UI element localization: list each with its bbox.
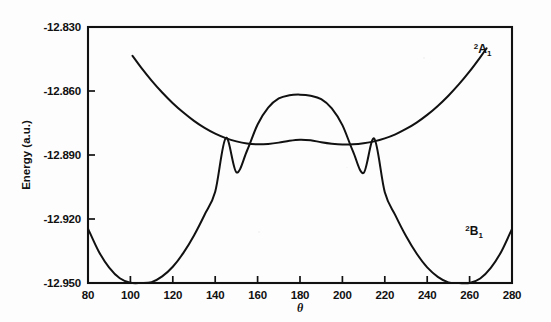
x-axis-title: θ — [297, 301, 304, 315]
y-axis-title: Energy (a.u.) — [20, 120, 32, 190]
x-tick-label: 100 — [121, 289, 140, 301]
series-label-2B1: 2B1 — [465, 224, 483, 240]
x-tick-label: 80 — [82, 289, 94, 301]
data-curves — [88, 48, 512, 283]
x-tick-label: 240 — [418, 289, 437, 301]
x-tick-label: 180 — [291, 289, 310, 301]
x-tick-label: 260 — [460, 289, 479, 301]
x-tick-label: 200 — [333, 289, 352, 301]
energy-vs-theta-chart: 80100120140160180200220240260280 -12.950… — [0, 0, 551, 322]
x-tick-label: 160 — [248, 289, 267, 301]
y-tick-label: -12.950 — [43, 277, 81, 289]
series-label-2A1: 2A1 — [474, 42, 492, 58]
x-tick-label: 120 — [164, 289, 183, 301]
plot-frame — [88, 27, 512, 283]
y-axis-tick-labels: -12.950-12.920-12.890-12.860-12.830 — [43, 21, 81, 289]
x-tick-label: 220 — [376, 289, 395, 301]
y-tick-label: -12.890 — [43, 149, 81, 161]
figure-container: 80100120140160180200220240260280 -12.950… — [0, 0, 551, 322]
y-tick-label: -12.830 — [43, 21, 81, 33]
curve-2B1 — [88, 95, 512, 284]
x-axis-tick-labels: 80100120140160180200220240260280 — [82, 289, 522, 301]
x-tick-label: 280 — [503, 289, 522, 301]
y-tick-label: -12.860 — [43, 85, 81, 97]
y-tick-label: -12.920 — [43, 213, 81, 225]
x-tick-label: 140 — [206, 289, 225, 301]
